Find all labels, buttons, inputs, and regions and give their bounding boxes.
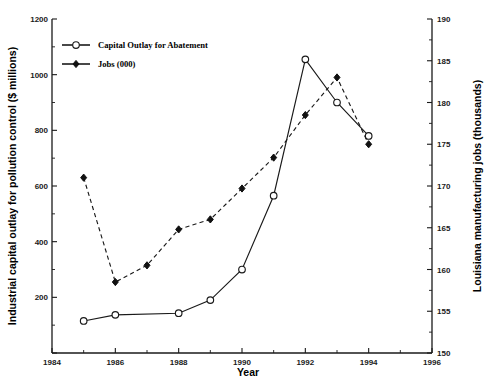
line-chart: 20040060080010001200 1984198619881990199… bbox=[0, 0, 496, 383]
data-point-capital-outlay bbox=[239, 266, 246, 273]
legend-label: Jobs (000) bbox=[98, 59, 136, 69]
y-axis-right-title: Louisiana manufacturing jobs (thousands) bbox=[471, 80, 483, 292]
y-right-tick-label: 190 bbox=[437, 15, 451, 24]
x-tick-label: 1984 bbox=[43, 358, 61, 367]
chart-figure: 20040060080010001200 1984198619881990199… bbox=[0, 0, 496, 383]
y-right-tick-label: 175 bbox=[437, 140, 451, 149]
x-axis-title: Year bbox=[237, 366, 259, 378]
legend-label: Capital Outlay for Abatement bbox=[98, 40, 208, 50]
data-point-capital-outlay bbox=[80, 318, 87, 325]
y-left-tick-label: 1000 bbox=[30, 71, 48, 80]
data-point-capital-outlay bbox=[270, 192, 277, 199]
data-point-capital-outlay bbox=[334, 99, 341, 106]
data-point-capital-outlay bbox=[207, 297, 214, 304]
y-left-tick-label: 1200 bbox=[30, 15, 48, 24]
y-right-tick-label: 160 bbox=[437, 266, 451, 275]
x-tick-label: 1992 bbox=[296, 358, 314, 367]
x-tick-label: 1986 bbox=[106, 358, 124, 367]
x-tick-label: 1996 bbox=[423, 358, 441, 367]
chart-background bbox=[0, 0, 496, 383]
y-right-tick-label: 170 bbox=[437, 182, 451, 191]
data-point-capital-outlay bbox=[302, 56, 309, 63]
data-point-capital-outlay bbox=[112, 312, 119, 319]
data-point-capital-outlay bbox=[175, 310, 182, 317]
legend-marker-open-circle bbox=[73, 42, 80, 49]
y-right-tick-label: 185 bbox=[437, 57, 451, 66]
x-tick-label: 1994 bbox=[360, 358, 378, 367]
y-left-tick-label: 400 bbox=[35, 238, 49, 247]
x-tick-label: 1988 bbox=[170, 358, 188, 367]
y-right-tick-label: 150 bbox=[437, 349, 451, 358]
y-left-tick-label: 600 bbox=[35, 182, 49, 191]
y-right-tick-label: 165 bbox=[437, 224, 451, 233]
y-right-tick-label: 155 bbox=[437, 307, 451, 316]
y-left-tick-label: 800 bbox=[35, 126, 49, 135]
y-axis-left-title: Industrial capital outlay for pollution … bbox=[6, 47, 18, 325]
y-right-tick-label: 180 bbox=[437, 99, 451, 108]
y-left-tick-label: 200 bbox=[35, 293, 49, 302]
